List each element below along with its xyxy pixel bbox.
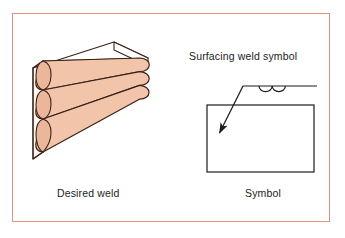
caption-symbol: Symbol xyxy=(245,187,281,199)
diagram-artwork xyxy=(0,0,345,238)
weld-symbol-drawing xyxy=(207,86,317,172)
caption-desired-weld: Desired weld xyxy=(57,187,120,199)
leader-line-with-arrow xyxy=(220,86,244,133)
welding-diagram-figure: Surfacing weld symbol Desired weld Symbo… xyxy=(0,0,345,238)
desired-weld-block xyxy=(33,42,149,159)
bead-end-caps xyxy=(36,61,51,152)
workpiece-rectangle xyxy=(207,105,314,172)
surfacing-weld-symbol-label: Surfacing weld symbol xyxy=(189,50,297,62)
surfacing-weld-arcs-icon xyxy=(259,86,285,92)
